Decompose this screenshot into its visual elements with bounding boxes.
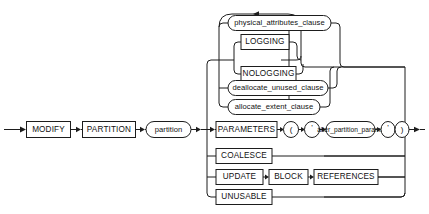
node-partition-nonterminal[interactable]: partition xyxy=(146,122,191,138)
logging-choice-left-spine xyxy=(228,42,241,74)
node-unusable[interactable]: UNUSABLE xyxy=(216,190,272,205)
node-update[interactable]: UPDATE xyxy=(216,170,263,185)
node-physical-attributes-clause-label: physical_attributes_clause xyxy=(234,18,324,27)
node-partition-keyword-label: PARTITION xyxy=(87,125,131,134)
node-quote-close[interactable]: ' xyxy=(381,122,395,138)
rail-physical-attributes-out xyxy=(331,23,405,67)
node-alter-partition-params-label: alter_partition_params xyxy=(317,126,384,134)
rail-spine-to-parameters xyxy=(207,127,216,132)
node-update-label: UPDATE xyxy=(223,172,257,181)
node-deallocate-unused-clause[interactable]: deallocate_unused_clause xyxy=(228,81,328,96)
node-physical-attributes-clause[interactable]: physical_attributes_clause xyxy=(228,16,331,31)
rail-block-to-references xyxy=(308,175,314,180)
node-block[interactable]: BLOCK xyxy=(269,170,308,185)
node-nologging-label: NOLOGGING xyxy=(243,69,295,78)
node-coalesce-label: COALESCE xyxy=(221,151,267,160)
arrow-right-icon xyxy=(210,127,215,132)
rail-nt-to-branch xyxy=(191,127,207,132)
arrow-right-icon xyxy=(196,127,201,132)
node-allocate-extent-clause-label: allocate_extent_clause xyxy=(235,102,313,111)
arrow-right-icon xyxy=(140,127,145,132)
node-allocate-extent-clause[interactable]: allocate_extent_clause xyxy=(228,100,320,115)
rail-modify-to-partition xyxy=(71,127,83,132)
node-references[interactable]: REFERENCES xyxy=(314,170,378,185)
node-left-paren-label: ( xyxy=(290,125,293,134)
node-alter-partition-params[interactable]: alter_partition_params xyxy=(317,122,384,138)
node-deallocate-unused-clause-label: deallocate_unused_clause xyxy=(232,83,323,92)
node-nologging[interactable]: NOLOGGING xyxy=(241,67,296,82)
node-references-label: REFERENCES xyxy=(317,172,375,181)
entry-arrow-icon xyxy=(20,127,26,133)
arrow-right-icon xyxy=(310,175,314,180)
node-logging-label: LOGGING xyxy=(245,37,284,46)
node-parameters-label: PARAMETERS xyxy=(218,125,276,134)
rail-partition-to-nt xyxy=(136,127,147,132)
rail-unusable-out xyxy=(272,193,405,197)
railroad-diagram: MODIFY PARTITION partition xyxy=(0,0,429,214)
node-unusable-label: UNUSABLE xyxy=(221,192,267,201)
entry-rail xyxy=(4,127,26,133)
node-coalesce[interactable]: COALESCE xyxy=(216,149,272,164)
node-partition-nonterminal-label: partition xyxy=(155,125,182,134)
node-modify[interactable]: MODIFY xyxy=(27,122,71,138)
node-block-label: BLOCK xyxy=(274,172,303,181)
arrow-right-icon xyxy=(76,127,81,132)
node-right-paren[interactable]: ) xyxy=(395,122,409,138)
node-partition-keyword[interactable]: PARTITION xyxy=(83,122,136,138)
rail-update-to-block xyxy=(263,175,269,180)
node-parameters[interactable]: PARAMETERS xyxy=(216,122,277,138)
node-logging[interactable]: LOGGING xyxy=(241,35,289,50)
rail-parameters-to-lparen xyxy=(277,127,284,132)
node-modify-label: MODIFY xyxy=(32,125,65,134)
exit-arrow-icon xyxy=(414,127,420,132)
arrow-right-icon xyxy=(265,175,269,180)
syntax-diagram-canvas: MODIFY PARTITION partition xyxy=(0,0,429,214)
repeat-group-left-spine xyxy=(214,23,228,107)
node-right-paren-label: ) xyxy=(401,125,404,134)
node-left-paren[interactable]: ( xyxy=(284,122,299,138)
